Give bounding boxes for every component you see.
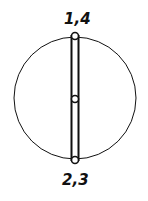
- linkage-diagram: 1,4 2,3: [0, 0, 148, 201]
- bottom-label: 2,3: [62, 171, 89, 189]
- top-label: 1,4: [64, 10, 91, 28]
- bottom-joint: [72, 157, 79, 164]
- top-joint: [72, 33, 79, 40]
- middle-joint: [72, 96, 79, 103]
